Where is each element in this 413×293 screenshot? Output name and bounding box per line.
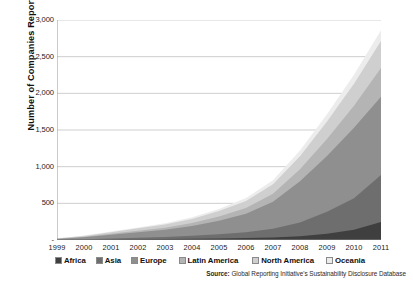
x-tick-label: 1999	[42, 243, 72, 252]
legend-label: Latin America	[188, 256, 239, 265]
x-tick-label: 2011	[366, 243, 396, 252]
legend-label: Africa	[64, 256, 86, 265]
legend-label: Oceania	[335, 256, 365, 265]
x-tick-label: 2008	[285, 243, 315, 252]
x-tick-label: 2000	[69, 243, 99, 252]
legend-swatch-icon	[96, 257, 103, 264]
legend-item-oceania[interactable]: Oceania	[326, 256, 365, 265]
x-tick-label: 2004	[177, 243, 207, 252]
legend-swatch-icon	[179, 257, 186, 264]
y-tick-label: 500	[20, 199, 54, 207]
legend-item-latin-america[interactable]: Latin America	[179, 256, 239, 265]
x-tick-label: 2001	[96, 243, 126, 252]
legend-label: North America	[261, 256, 314, 265]
y-axis-tick-labels: -5001,0001,5002,0002,5003,000	[16, 0, 54, 260]
y-tick-label: 1,500	[20, 126, 54, 134]
x-tick-label: 2006	[231, 243, 261, 252]
x-tick-label: 2009	[312, 243, 342, 252]
x-tick-label: 2003	[150, 243, 180, 252]
x-tick-label: 2005	[204, 243, 234, 252]
source-prefix: Source:	[206, 270, 229, 277]
y-tick-label: 2,000	[20, 89, 54, 97]
x-tick-label: 2010	[339, 243, 369, 252]
chart-legend: AfricaAsiaEuropeLatin AmericaNorth Ameri…	[40, 254, 380, 266]
y-tick-label: 2,500	[20, 53, 54, 61]
source-note: Source: Global Reporting Initiative's Su…	[0, 270, 406, 277]
legend-swatch-icon	[55, 257, 62, 264]
x-tick-label: 2002	[123, 243, 153, 252]
y-tick-label: 1,000	[20, 163, 54, 171]
legend-item-europe[interactable]: Europe	[131, 256, 167, 265]
source-text: Global Reporting Initiative's Sustainabi…	[231, 270, 406, 277]
plot-area	[57, 20, 381, 240]
x-tick-label: 2007	[258, 243, 288, 252]
legend-label: Asia	[105, 256, 121, 265]
legend-label: Europe	[140, 256, 167, 265]
legend-item-africa[interactable]: Africa	[55, 256, 86, 265]
y-tick-label: 3,000	[20, 16, 54, 24]
plot-svg	[57, 20, 381, 240]
legend-item-asia[interactable]: Asia	[96, 256, 121, 265]
stacked-area-chart: Number of Companies Reporting -5001,0001…	[0, 0, 413, 293]
legend-swatch-icon	[131, 257, 138, 264]
legend-swatch-icon	[326, 257, 333, 264]
legend-item-north-america[interactable]: North America	[252, 256, 314, 265]
legend-swatch-icon	[252, 257, 259, 264]
